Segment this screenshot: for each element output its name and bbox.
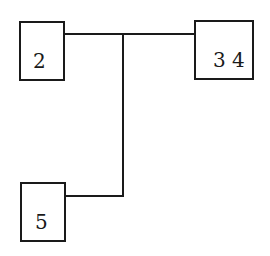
node-label-34: 3 4 (213, 48, 245, 72)
node-box-2: 2 (19, 21, 65, 81)
node-label-2: 2 (33, 49, 46, 73)
node-box-5: 5 (20, 182, 66, 242)
node-label-5: 5 (35, 210, 48, 234)
node-box-34: 3 4 (194, 20, 254, 80)
